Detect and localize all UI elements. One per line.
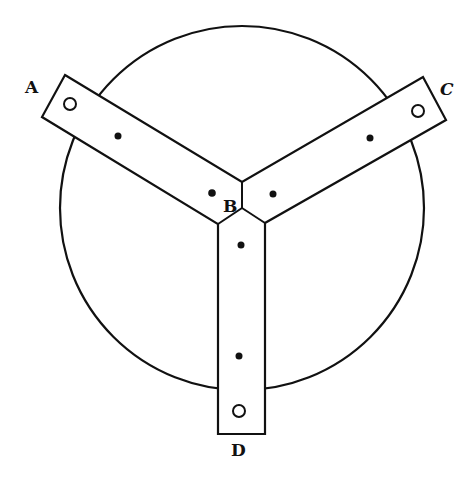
arm-c-mid-rivet: [367, 135, 374, 142]
arm-d-mid-rivet: [236, 353, 243, 360]
label-c: C: [440, 79, 454, 99]
arm-d-hub-rivet: [238, 242, 245, 249]
label-b: B: [223, 196, 237, 216]
y-bracket-outline: [42, 75, 446, 434]
label-d: D: [231, 440, 246, 460]
arm-a-hub-rivet: [208, 189, 216, 197]
arm-c-hub-rivet: [270, 191, 277, 198]
label-a: A: [24, 77, 39, 97]
arm-a-mid-rivet: [115, 133, 122, 140]
y-bracket-diagram: A B C D: [0, 0, 472, 477]
